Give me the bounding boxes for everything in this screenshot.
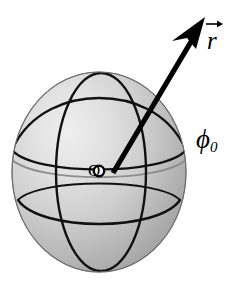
sphere-diagram-canvas [0, 0, 242, 281]
figure-root: r ϕ0 O [0, 0, 242, 281]
origin-marker [94, 166, 104, 176]
